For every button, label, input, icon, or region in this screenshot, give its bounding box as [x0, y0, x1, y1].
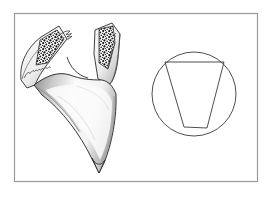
figure-canvas [0, 0, 274, 199]
figure-root: Anatomical line drawing with schematic c… [0, 0, 274, 199]
